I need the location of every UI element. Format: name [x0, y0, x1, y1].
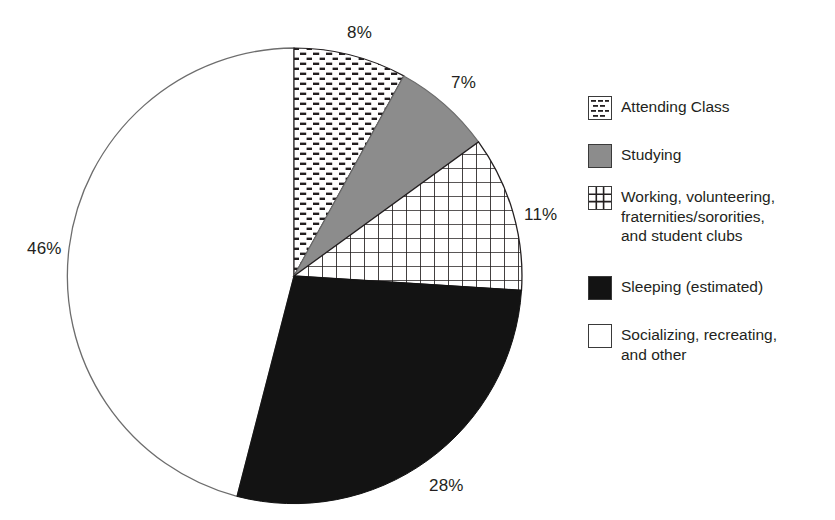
legend-label-socializing: Socializing, recreating, and other	[621, 324, 777, 364]
dashes-swatch-icon	[588, 96, 612, 120]
legend-item-working: Working, volunteering, fraternities/soro…	[588, 186, 775, 246]
pie-chart-svg	[0, 0, 835, 520]
slice-label-sleeping: 28%	[429, 477, 464, 494]
slice-label-studying: 7%	[451, 74, 476, 91]
white-swatch-icon	[588, 324, 612, 348]
legend-label-studying: Studying	[621, 144, 681, 165]
gray-swatch-icon	[588, 144, 612, 168]
legend-item-attending-class: Attending Class	[588, 96, 730, 120]
legend-label-working: Working, volunteering, fraternities/soro…	[621, 186, 775, 246]
legend-item-studying: Studying	[588, 144, 681, 168]
legend-item-socializing: Socializing, recreating, and other	[588, 324, 777, 364]
pie-chart: 8% 7% 11% 28% 46%	[0, 0, 835, 520]
slice-label-working: 11%	[524, 206, 557, 223]
slice-label-attending-class: 8%	[347, 24, 372, 41]
grid-swatch-icon	[588, 186, 612, 210]
legend-item-sleeping: Sleeping (estimated)	[588, 276, 763, 300]
legend-label-attending-class: Attending Class	[621, 96, 730, 117]
legend-label-sleeping: Sleeping (estimated)	[621, 276, 763, 297]
slice-label-socializing: 46%	[27, 240, 62, 257]
black-swatch-icon	[588, 276, 612, 300]
